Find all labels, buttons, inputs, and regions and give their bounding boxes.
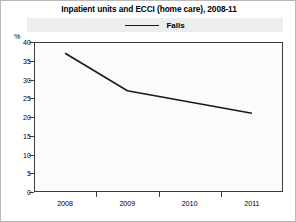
y-axis-tick-label: 30 bbox=[7, 75, 31, 84]
x-axis-tick-mark bbox=[221, 192, 222, 197]
y-axis-tick-label: 40 bbox=[7, 38, 31, 47]
y-axis-labels: 0510152025303540 bbox=[5, 42, 31, 192]
y-axis-tick-label: 10 bbox=[7, 150, 31, 159]
legend-label-falls: Falls bbox=[166, 21, 184, 30]
y-axis-tick-label: 0 bbox=[7, 188, 31, 197]
x-axis-tick-label: 2011 bbox=[232, 199, 272, 208]
y-axis-tick-label: 35 bbox=[7, 56, 31, 65]
legend-line-swatch bbox=[125, 25, 159, 26]
chart-legend: Falls bbox=[27, 18, 283, 32]
x-axis-labels: 2008200920102011 bbox=[34, 199, 283, 211]
y-axis-tick-label: 15 bbox=[7, 131, 31, 140]
x-axis-ticks bbox=[34, 192, 283, 197]
x-axis-tick-label: 2010 bbox=[170, 199, 210, 208]
x-axis-tick-mark bbox=[159, 192, 160, 197]
y-axis-tick-label: 25 bbox=[7, 94, 31, 103]
chart-figure: Inpatient units and ECCI (home care), 20… bbox=[0, 0, 296, 222]
x-axis-tick-mark bbox=[96, 192, 97, 197]
x-axis-tick-label: 2008 bbox=[45, 199, 85, 208]
y-axis-tick-label: 20 bbox=[7, 113, 31, 122]
y-axis-tick-label: 5 bbox=[7, 169, 31, 178]
chart-title: Inpatient units and ECCI (home care), 20… bbox=[1, 4, 296, 14]
series-line-falls bbox=[34, 42, 283, 192]
x-axis-tick-label: 2009 bbox=[107, 199, 147, 208]
